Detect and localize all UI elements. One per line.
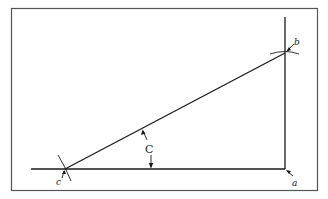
label-c: c — [56, 177, 61, 187]
diagram-frame — [12, 9, 318, 191]
label-a: a — [292, 178, 297, 188]
arrowhead-c-icon — [62, 170, 66, 174]
label-angle-c: C — [145, 143, 153, 156]
angle-arrowhead-bottom-icon — [149, 163, 153, 169]
label-b: b — [294, 37, 300, 47]
hypotenuse-line — [65, 53, 285, 169]
construction-diagram: b c a C — [0, 0, 328, 199]
